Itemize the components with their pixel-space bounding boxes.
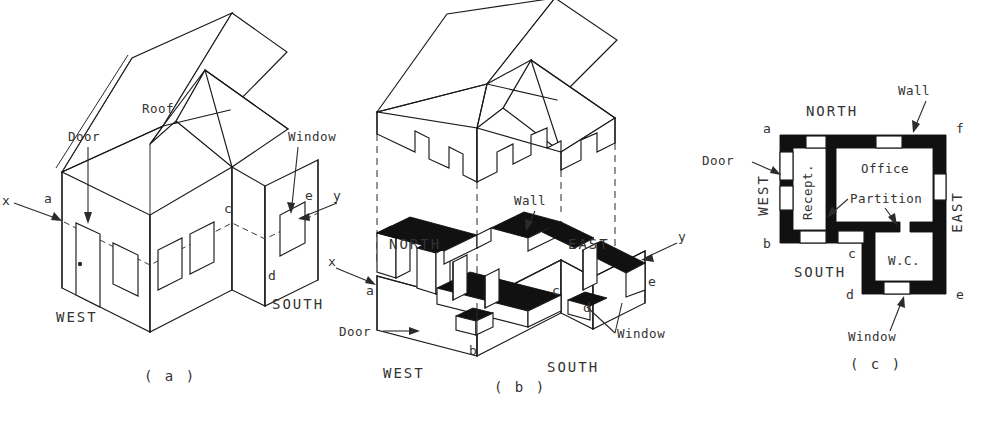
direction-west-label-a: WEST: [56, 309, 98, 325]
window-label-c: Window: [848, 329, 896, 344]
panel-c-floor-plan: Office Recept. W.C. a f b c d e NORTH SO…: [680, 0, 988, 424]
direction-west-label-c: WEST: [755, 174, 771, 216]
window-plan-west-1: [780, 186, 793, 210]
window-plan-east-1: [934, 174, 946, 200]
wall-b-stub-2: [485, 269, 499, 308]
panel-b-exploded-isometric: x y a b c d e Wall Door Window NORTH EAS…: [325, 0, 695, 424]
direction-north-label-b: NORTH: [389, 236, 441, 252]
doorway-plan-recept: [806, 136, 826, 148]
direction-west-label-b: WEST: [383, 365, 425, 381]
door-leader-arrowhead-c: [770, 166, 781, 175]
wall-label-c: Wall: [898, 83, 930, 98]
wall-b-north-void: [477, 228, 491, 248]
point-c-label-c: c: [848, 246, 856, 261]
point-e-label-b: e: [648, 274, 656, 289]
door-plan-west: [780, 152, 793, 180]
point-e-label-c: e: [956, 287, 964, 302]
figure-container: x a y e c d Door Roof Window WEST SOUTH …: [0, 0, 988, 424]
window-plan-north: [876, 136, 902, 148]
roof-b-fascia-west: [377, 112, 477, 182]
window-plan-south-wc: [884, 282, 910, 294]
point-b-label-c: b: [763, 236, 771, 251]
door-knob-icon: [78, 262, 82, 266]
point-c-label-b: c: [552, 283, 560, 298]
wall-leader-arrowhead-c: [912, 120, 920, 133]
door-label-a: Door: [68, 129, 100, 144]
wall-label-b: Wall: [514, 193, 546, 208]
room-label-office: Office: [861, 161, 909, 176]
direction-north-label-c: NORTH: [806, 103, 858, 119]
window-plan-south-1: [800, 231, 826, 243]
panel-a-caption: ( a ): [144, 368, 196, 384]
direction-east-label-b: EAST: [568, 236, 610, 252]
wall-leader-c: [916, 101, 926, 125]
panel-b-caption: ( b ): [494, 379, 546, 395]
wall-west-face: [62, 172, 150, 332]
point-a-label-c: a: [763, 121, 771, 136]
point-d-label-c: d: [846, 287, 854, 302]
point-a-label-b: a: [366, 283, 374, 298]
point-a-label-a: a: [44, 191, 52, 206]
partition-label-c: Partition: [850, 191, 922, 206]
window-label-b: Window: [617, 326, 665, 341]
room-label-wc: W.C.: [888, 253, 920, 268]
panel-c-caption: ( c ): [850, 356, 902, 372]
roof-label-a: Roof: [142, 101, 174, 116]
direction-south-label-c: SOUTH: [794, 264, 846, 280]
direction-south-label-b: SOUTH: [547, 359, 599, 375]
axis-x-arrowhead-a: [51, 212, 62, 221]
wall-b-west-outer-2: [417, 248, 436, 294]
window-plan-south-2: [838, 231, 864, 243]
axis-x-line-b: [336, 268, 370, 282]
room-label-reception: Recept.: [800, 164, 815, 220]
plan-partition-wc-north: [910, 222, 933, 232]
direction-south-label-a: SOUTH: [272, 296, 324, 312]
point-d-label-a: d: [268, 268, 276, 283]
wall-b-stub-1: [453, 255, 467, 300]
axis-x-label-b: x: [328, 254, 336, 269]
point-b-label-b: b: [469, 343, 477, 358]
door-label-c: Door: [702, 153, 734, 168]
axis-x-label-a: x: [2, 193, 10, 208]
point-f-label-c: f: [956, 121, 964, 136]
point-c-label-a: c: [224, 201, 232, 216]
wall-inner-return-face: [232, 167, 265, 306]
point-e-label-a: e: [305, 188, 313, 203]
window-leader-arrowhead-c: [897, 296, 905, 308]
window-leader-c: [890, 303, 901, 331]
door-label-b: Door: [339, 324, 371, 339]
direction-east-label-c: EAST: [949, 191, 965, 233]
panel-a-isometric-exterior: x a y e c d Door Roof Window WEST SOUTH …: [0, 0, 340, 424]
